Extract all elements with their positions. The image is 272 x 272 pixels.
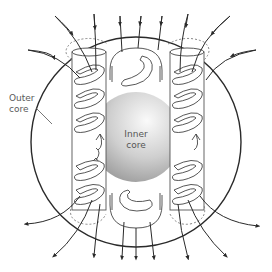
outer-core-label-line2: core xyxy=(9,104,35,115)
outer-core-label-line1: Outer xyxy=(9,93,35,104)
inner-core-label: Inner core xyxy=(118,129,154,151)
outer-core-label: Outer core xyxy=(9,93,35,115)
inner-core-label-line1: Inner xyxy=(118,129,154,140)
outer-core-leader-line xyxy=(36,108,52,124)
left-column xyxy=(66,38,108,224)
inner-core-label-line2: core xyxy=(118,140,154,151)
right-column xyxy=(168,38,209,224)
